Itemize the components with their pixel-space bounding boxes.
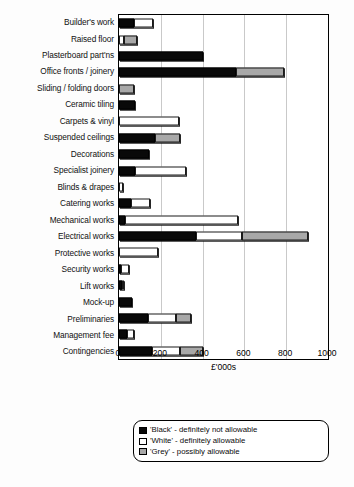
bar-segment-black: [119, 313, 148, 322]
x-axis-ticks: 02004006008001000: [118, 348, 329, 361]
x-axis-title: £'000s: [118, 362, 329, 372]
category-label: Security works: [0, 261, 118, 277]
stacked-bar: [119, 232, 308, 241]
x-tick-label: 1000: [317, 348, 336, 358]
bar-segment-white: [148, 313, 176, 322]
category-label: Mock-up: [0, 294, 118, 310]
bar-row: [119, 277, 328, 293]
bar-row: [119, 228, 328, 244]
bar-row: [119, 130, 328, 146]
stacked-bar: [119, 117, 179, 126]
stacked-bar: [119, 182, 123, 191]
stacked-bar: [119, 19, 153, 28]
bar-row: [119, 195, 328, 211]
legend-swatch-white-icon: [139, 438, 147, 445]
x-tick-label: 0: [116, 348, 121, 358]
bar-segment-black: [119, 68, 236, 77]
category-axis-labels: Builder's workRaised floorPlasterboard p…: [0, 14, 118, 360]
bar-row: [119, 146, 328, 162]
x-tick-label: 800: [278, 348, 292, 358]
bar-segment-white: [121, 264, 129, 273]
plot-area-wrapper: Builder's workRaised floorPlasterboard p…: [0, 14, 354, 374]
category-label: Raised floor: [0, 30, 118, 46]
category-label: Sliding / folding doors: [0, 80, 118, 96]
bar-row: [119, 113, 328, 129]
bar-row: [119, 293, 328, 309]
bar-segment-white: [135, 166, 186, 175]
bar-row: [119, 97, 328, 113]
category-label: Catering works: [0, 195, 118, 211]
x-tick-label: 400: [194, 348, 208, 358]
category-label: Suspended ceilings: [0, 129, 118, 145]
bar-row: [119, 81, 328, 97]
bar-segment-grey: [176, 313, 191, 322]
stacked-bar: [119, 215, 238, 224]
legend-item: 'White' - definitely allowable: [139, 436, 322, 447]
bar-row: [119, 261, 328, 277]
category-label: Mechanical works: [0, 212, 118, 228]
stacked-bar-chart: Builder's workRaised floorPlasterboard p…: [0, 0, 354, 487]
category-label: Decorations: [0, 146, 118, 162]
category-label: Builder's work: [0, 14, 118, 30]
bar-segment-grey: [124, 35, 137, 44]
stacked-bar: [119, 68, 284, 77]
bar-row: [119, 48, 328, 64]
category-label: Management fee: [0, 327, 118, 343]
plot-area: [118, 14, 329, 360]
category-label: Ceramic tiling: [0, 96, 118, 112]
chart-legend: 'Black' - definitely not allowable 'Whit…: [133, 420, 329, 462]
bar-segment-black: [119, 199, 131, 208]
bar-segment-black: [119, 166, 135, 175]
category-label: Lift works: [0, 278, 118, 294]
bar-segment-white: [122, 281, 124, 290]
stacked-bar: [119, 133, 180, 142]
bar-row: [119, 212, 328, 228]
bar-segment-black: [119, 101, 135, 110]
bar-segment-black: [119, 19, 134, 28]
x-tick-label: 600: [236, 348, 250, 358]
stacked-bar: [119, 84, 134, 93]
stacked-bar: [119, 297, 132, 306]
bar-segment-black: [119, 232, 196, 241]
bar-row: [119, 326, 328, 342]
legend-label-grey: 'Grey' - possibly allowable: [150, 447, 240, 458]
bar-segment-white: [119, 248, 158, 257]
bar-rows: [119, 15, 328, 359]
legend-swatch-black-icon: [139, 427, 147, 434]
x-tick-label: 200: [153, 348, 167, 358]
bar-segment-black: [119, 51, 203, 60]
bar-segment-white: [134, 19, 154, 28]
bar-row: [119, 15, 328, 31]
stacked-bar: [119, 166, 186, 175]
stacked-bar: [119, 35, 137, 44]
legend-swatch-grey-icon: [139, 448, 147, 455]
bar-segment-black: [119, 297, 132, 306]
bar-row: [119, 162, 328, 178]
bar-segment-white: [125, 215, 238, 224]
bar-segment-white: [131, 199, 150, 208]
category-label: Plasterboard part'ns: [0, 47, 118, 63]
stacked-bar: [119, 313, 191, 322]
stacked-bar: [119, 281, 124, 290]
category-label: Contingencies: [0, 343, 118, 359]
category-label: Specialist joinery: [0, 162, 118, 178]
category-label: Protective works: [0, 245, 118, 261]
bar-row: [119, 244, 328, 260]
bar-row: [119, 310, 328, 326]
bar-segment-white: [119, 117, 179, 126]
bar-segment-black: [119, 150, 149, 159]
bar-row: [119, 64, 328, 80]
bar-segment-grey: [242, 232, 308, 241]
category-label: Blinds & drapes: [0, 179, 118, 195]
bar-row: [119, 179, 328, 195]
category-label: Office fronts / joinery: [0, 63, 118, 79]
legend-item: 'Black' - definitely not allowable: [139, 425, 322, 436]
stacked-bar: [119, 330, 134, 339]
bar-row: [119, 31, 328, 47]
bar-segment-grey: [119, 84, 134, 93]
stacked-bar: [119, 264, 129, 273]
category-label: Electrical works: [0, 228, 118, 244]
stacked-bar: [119, 248, 158, 257]
legend-label-white: 'White' - definitely allowable: [150, 436, 245, 447]
category-label: Preliminaries: [0, 310, 118, 326]
